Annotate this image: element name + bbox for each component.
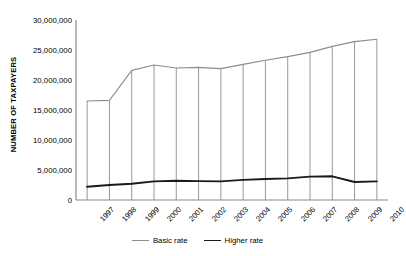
x-tick-label: 2000 [165, 205, 183, 223]
x-tick-label: 2007 [321, 205, 339, 223]
legend-item-basic-rate: Basic rate [132, 236, 188, 245]
legend-label-higher: Higher rate [225, 236, 264, 245]
chart-legend: Basic rate Higher rate [0, 236, 395, 245]
x-tick-label: 2004 [254, 205, 272, 223]
legend-line-icon-basic [132, 240, 149, 241]
x-tick-label: 2001 [187, 205, 205, 223]
x-tick-label: 2006 [299, 205, 317, 223]
legend-item-higher-rate: Higher rate [204, 236, 264, 245]
x-tick-label: 2010 [388, 205, 406, 223]
x-tick-label: 1998 [120, 205, 138, 223]
x-tick-label: 2008 [343, 205, 361, 223]
x-tick-label: 1999 [143, 205, 161, 223]
x-tick-label: 2003 [232, 205, 250, 223]
x-tick-label: 2009 [366, 205, 384, 223]
x-tick-label: 2005 [276, 205, 294, 223]
legend-label-basic: Basic rate [153, 236, 188, 245]
x-tick-label: 2002 [210, 205, 228, 223]
x-tick-label: 1997 [98, 205, 116, 223]
legend-line-icon-higher [204, 240, 221, 241]
